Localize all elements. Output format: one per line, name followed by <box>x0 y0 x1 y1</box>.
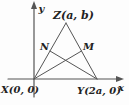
vertex-z-label: Z(a, b) <box>52 9 94 22</box>
y-axis-arrowhead-icon <box>31 1 37 9</box>
vertex-x-label: X(0, 0) <box>0 84 39 96</box>
x-axis-label: x <box>117 82 125 93</box>
geometry-figure: y Z(a, b) N M X(0, 0) Y(2a, 0) x <box>0 0 129 105</box>
point-m-label: M <box>82 41 95 52</box>
y-axis-label: y <box>38 3 46 14</box>
vertex-y-label: Y(2a, 0) <box>77 85 121 97</box>
point-n-label: N <box>39 41 50 52</box>
label-group: y Z(a, b) N M X(0, 0) Y(2a, 0) x <box>0 3 125 97</box>
